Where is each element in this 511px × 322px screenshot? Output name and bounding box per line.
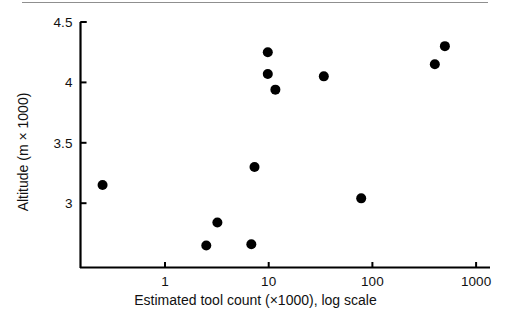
data-point	[319, 71, 329, 81]
data-point	[250, 162, 260, 172]
data-point	[440, 41, 450, 51]
chart-figure: 33.544.5 1101001000 Estimated tool count…	[0, 0, 511, 322]
x-axis-tick-label: 1	[161, 274, 169, 289]
y-axis-tick-label: 4	[65, 75, 73, 90]
axes-lines	[80, 22, 490, 268]
scatter-plot-canvas	[0, 0, 511, 322]
y-axis-tick-label: 4.5	[53, 15, 72, 30]
data-point	[430, 59, 440, 69]
data-point	[201, 240, 211, 250]
y-axis-title: Altitude (m × 1000)	[15, 52, 31, 252]
x-axis-title: Estimated tool count (×1000), log scale	[0, 292, 511, 308]
data-point	[263, 47, 273, 57]
x-axis-tick-label: 1000	[461, 274, 491, 289]
data-point	[270, 85, 280, 95]
x-axis-tick-label: 10	[261, 274, 276, 289]
y-axis-tick-label: 3	[65, 196, 73, 211]
y-axis-tick-label: 3.5	[53, 135, 72, 150]
data-points-group	[98, 41, 450, 250]
data-point	[356, 193, 366, 203]
x-axis-tick-label: 100	[361, 274, 384, 289]
data-point	[246, 239, 256, 249]
data-point	[263, 69, 273, 79]
data-point	[98, 180, 108, 190]
data-point	[212, 218, 222, 228]
